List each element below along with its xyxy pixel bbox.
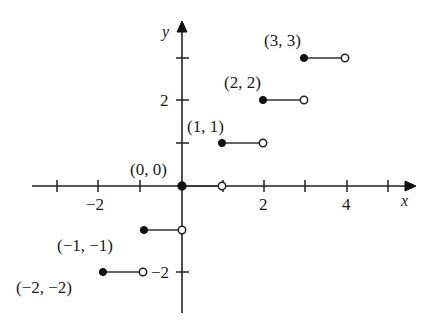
segment-zero <box>178 182 226 190</box>
closed-endpoint-neg1 <box>140 226 147 233</box>
step-function-figure: x y −2 2 4 2 −2 (3, 3) (2, 2) (1, 1) (0,… <box>0 0 445 321</box>
segment-one <box>218 139 266 146</box>
y-tick-label-neg2: −2 <box>151 264 169 281</box>
x-tick-label-neg2: −2 <box>86 196 104 213</box>
closed-endpoint-neg2 <box>99 268 106 275</box>
y-axis-label: y <box>162 24 169 40</box>
closed-endpoint-three <box>300 54 307 61</box>
point-label-3-3: (3, 3) <box>264 32 301 49</box>
x-axis-label: x <box>401 193 408 209</box>
segment-two <box>259 96 307 103</box>
plot-canvas <box>0 0 445 321</box>
open-endpoint-two <box>300 96 307 103</box>
segment-neg1 <box>140 226 185 233</box>
point-label-1-1: (1, 1) <box>187 118 224 135</box>
segment-three <box>300 54 348 61</box>
y-axis-arrowhead <box>177 21 187 32</box>
open-endpoint-zero <box>218 182 225 189</box>
x-tick-label-2: 2 <box>259 196 268 213</box>
x-tick-label-4: 4 <box>342 196 351 213</box>
open-endpoint-neg2 <box>139 268 146 275</box>
open-endpoint-neg1 <box>178 226 185 233</box>
y-axis-group <box>176 21 189 313</box>
open-endpoint-one <box>259 139 266 146</box>
segment-neg2 <box>99 268 146 275</box>
point-label-2-2: (2, 2) <box>224 74 261 91</box>
point-label-0-0: (0, 0) <box>130 161 167 178</box>
open-endpoint-three <box>341 54 348 61</box>
closed-endpoint-two <box>259 96 266 103</box>
closed-endpoint-one <box>218 139 225 146</box>
closed-endpoint-zero <box>178 182 186 190</box>
point-label-neg2-neg2: (−2, −2) <box>16 279 72 296</box>
x-axis-arrowhead <box>405 181 416 191</box>
y-tick-label-2: 2 <box>160 92 169 109</box>
point-label-neg1-neg1: (−1, −1) <box>57 237 113 254</box>
